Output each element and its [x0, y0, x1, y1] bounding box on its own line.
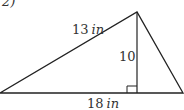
- height-label: 10: [119, 49, 136, 64]
- base-label: 18in: [87, 96, 119, 110]
- right-angle-marker: [127, 86, 137, 93]
- side-unit: in: [92, 22, 105, 37]
- problem-number: 2): [1, 0, 15, 9]
- side-label-13: 13in: [72, 22, 104, 37]
- base-value: 18: [87, 96, 104, 110]
- triangle-figure: 2) 13in 10 18in: [0, 0, 184, 110]
- side-value: 13: [72, 22, 89, 37]
- base-unit: in: [107, 96, 120, 110]
